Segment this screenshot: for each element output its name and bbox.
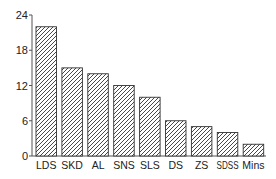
x-tick-label: Mins	[242, 159, 264, 171]
bar-lds	[36, 27, 57, 156]
x-tick-label: SNS	[113, 159, 135, 171]
bar-ds	[166, 121, 187, 156]
y-tick-label: 24	[16, 9, 28, 21]
x-tick-label: DS	[168, 159, 183, 171]
x-tick-label: SKD	[61, 159, 83, 171]
y-tick-label: 18	[16, 44, 28, 56]
bar-skd	[62, 68, 83, 156]
x-tick-label: ZS	[195, 159, 208, 171]
bar-sls	[140, 97, 161, 156]
y-tick-label: 0	[22, 150, 28, 162]
x-tick-label: AL	[92, 159, 105, 171]
bar-sns	[114, 86, 135, 157]
bar-mins	[243, 144, 264, 156]
y-tick-label: 6	[22, 115, 28, 127]
bar-sdss	[217, 133, 238, 157]
x-tick-label: SDSS	[217, 159, 239, 171]
bar-chart: 06121824 LDSSKDALSNSSLSDSZSSDSSMins	[0, 0, 276, 179]
x-tick-label: SLS	[140, 159, 160, 171]
y-tick-label: 12	[16, 80, 28, 92]
bar-zs	[191, 127, 212, 156]
x-tick-label: LDS	[36, 159, 56, 171]
bars	[36, 27, 264, 156]
bar-al	[88, 74, 109, 156]
x-axis-labels: LDSSKDALSNSSLSDSZSSDSSMins	[36, 159, 265, 171]
